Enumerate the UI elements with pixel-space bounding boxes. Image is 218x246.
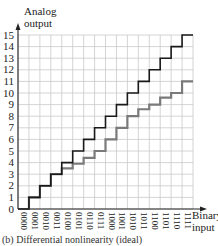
x-tick-labels: 0000000100100011010001010110011110001001…: [19, 212, 193, 231]
x-tick-label: 0111: [96, 212, 106, 229]
y-tick-label: 9: [9, 98, 15, 110]
y-tick-labels: 0123456789101112131415: [3, 29, 15, 215]
y-axis-title-line1: Analog: [24, 5, 57, 17]
figure-caption: (b) Differential nonlinearity (ideal): [2, 234, 142, 245]
y-tick-label: 0: [9, 203, 15, 215]
y-tick-label: 12: [3, 63, 14, 75]
y-tick-label: 6: [9, 133, 15, 145]
y-tick-label: 11: [3, 75, 14, 87]
x-tick-label: 1011: [139, 212, 149, 230]
x-axis-title-line1: Binary: [192, 209, 218, 221]
y-tick-label: 8: [9, 110, 15, 122]
y-tick-label: 4: [9, 156, 15, 168]
x-axis-title-line2: input: [192, 221, 215, 233]
x-tick-label: 1110: [172, 212, 182, 230]
x-tick-label: 0101: [74, 212, 84, 230]
axes: [16, 23, 208, 212]
y-tick-label: 5: [9, 145, 15, 157]
y-tick-label: 13: [3, 52, 15, 64]
y-tick-label: 10: [3, 87, 15, 99]
y-axis-title-line2: output: [24, 17, 52, 29]
y-tick-label: 2: [9, 179, 15, 191]
y-axis-arrow-icon: [16, 23, 21, 30]
chart-canvas: 0123456789101112131415 00000001001000110…: [0, 0, 218, 246]
x-tick-label: 0110: [85, 212, 95, 230]
x-tick-label: 0000: [19, 212, 29, 231]
x-tick-label: 0010: [41, 212, 51, 231]
y-tick-label: 7: [9, 121, 15, 133]
x-tick-label: 0100: [63, 212, 73, 231]
x-tick-label: 1000: [107, 212, 117, 231]
dac-transfer-chart: 0123456789101112131415 00000001001000110…: [0, 0, 218, 246]
x-tick-label: 1100: [150, 212, 160, 230]
x-tick-label: 0001: [30, 212, 40, 230]
x-tick-label: 1001: [117, 212, 127, 230]
y-tick-label: 3: [9, 168, 15, 180]
x-tick-label: 1101: [161, 212, 171, 230]
y-tick-label: 15: [3, 29, 15, 41]
x-tick-label: 0011: [52, 212, 62, 230]
x-tick-label: 1010: [128, 212, 138, 231]
y-tick-label: 14: [3, 40, 15, 52]
y-tick-label: 1: [9, 191, 15, 203]
